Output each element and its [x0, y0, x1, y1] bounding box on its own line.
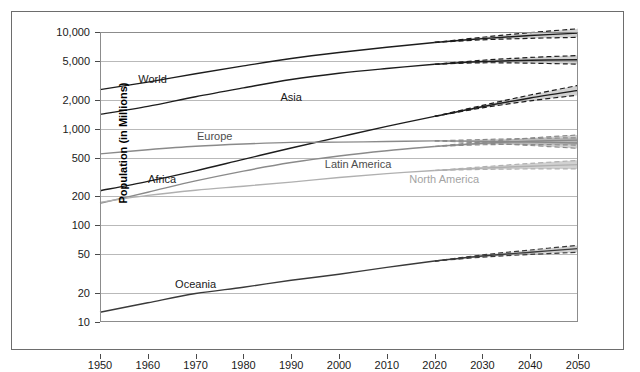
series-label-latin-america: Latin America	[325, 158, 392, 170]
y-tick-label: 500	[72, 152, 90, 164]
y-tick-label: 5,000	[62, 55, 90, 67]
series-label-asia: Asia	[280, 91, 301, 103]
y-tick-mark	[95, 293, 100, 294]
x-tick-label: 2000	[327, 359, 351, 371]
series-line-estimate	[100, 261, 435, 312]
x-tick-label: 2050	[566, 359, 590, 371]
x-tick-label: 1960	[136, 359, 160, 371]
y-tick-mark	[95, 322, 100, 323]
y-tick-label: 50	[78, 248, 90, 260]
y-tick-label: 1,000	[62, 123, 90, 135]
y-tick-mark	[95, 225, 100, 226]
y-axis-title: Population (in Millions)	[117, 58, 129, 228]
y-tick-label: 10,000	[56, 26, 90, 38]
x-tick-label: 1950	[88, 359, 112, 371]
y-tick-mark	[95, 254, 100, 255]
x-tick-label: 2020	[422, 359, 446, 371]
series-label-north-america: North America	[409, 173, 479, 185]
x-tick-label: 2040	[518, 359, 542, 371]
y-tick-label: 10	[78, 316, 90, 328]
y-tick-label: 100	[72, 219, 90, 231]
x-tick-label: 1970	[183, 359, 207, 371]
y-tick-mark	[95, 61, 100, 62]
x-tick-label: 2030	[470, 359, 494, 371]
y-tick-mark	[95, 196, 100, 197]
x-tick-label: 1990	[279, 359, 303, 371]
y-tick-mark	[95, 129, 100, 130]
series-label-oceania: Oceania	[175, 278, 216, 290]
y-tick-label: 2,000	[62, 94, 90, 106]
series-label-europe: Europe	[197, 130, 232, 142]
y-tick-mark	[95, 100, 100, 101]
series-label-africa: Africa	[148, 173, 176, 185]
y-tick-mark	[95, 158, 100, 159]
y-tick-label: 20	[78, 287, 90, 299]
chart-plot-area: 1020501002005001,0002,0005,00010,000 195…	[100, 32, 578, 322]
series-line-estimate	[100, 141, 435, 154]
series-label-world: World	[138, 73, 167, 85]
y-tick-label: 200	[72, 190, 90, 202]
x-tick-label: 1980	[231, 359, 255, 371]
y-tick-mark	[95, 32, 100, 33]
projection-low-line	[435, 95, 578, 116]
figure-container: 1020501002005001,0002,0005,00010,000 195…	[0, 0, 640, 372]
x-tick-label: 2010	[375, 359, 399, 371]
